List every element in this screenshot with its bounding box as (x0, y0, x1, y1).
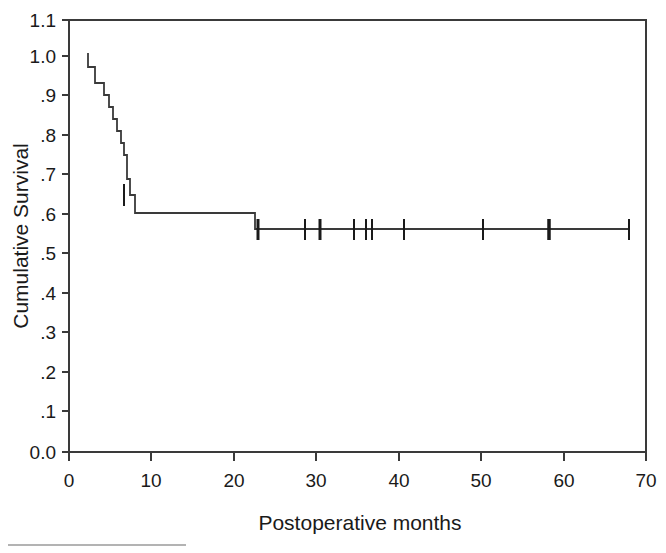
y-tick-label-0.2: .2 (40, 362, 56, 383)
y-tick-label-1.1: 1.1 (30, 10, 56, 31)
y-tick-label-0.5: .5 (40, 243, 56, 264)
plot-frame (69, 20, 646, 452)
y-tick-label-0.3: .3 (40, 322, 56, 343)
survival-chart-figure: 1.1 1.0 .9 .8 .7 .6 .5 .4 .3 .2 .1 0.0 0 (0, 0, 666, 553)
x-axis-ticks (69, 452, 646, 461)
x-tick-label-60: 60 (553, 470, 574, 491)
y-tick-label-0.8: .8 (40, 125, 56, 146)
x-tick-label-0: 0 (64, 470, 75, 491)
x-tick-label-20: 20 (223, 470, 244, 491)
x-axis-tick-labels: 0 10 20 30 40 50 60 70 (64, 470, 657, 491)
y-axis-ticks (62, 20, 69, 452)
scan-artifact-rule (8, 544, 186, 546)
x-tick-label-40: 40 (388, 470, 409, 491)
y-tick-label-0.0: 0.0 (30, 442, 56, 463)
x-tick-label-70: 70 (635, 470, 656, 491)
y-axis-tick-labels: 1.1 1.0 .9 .8 .7 .6 .5 .4 .3 .2 .1 0.0 (30, 10, 57, 463)
y-axis-title: Cumulative Survival (9, 143, 32, 329)
y-tick-label-1.0: 1.0 (30, 46, 56, 67)
y-tick-label-0.1: .1 (40, 401, 56, 422)
y-tick-label-0.7: .7 (40, 164, 56, 185)
x-tick-label-50: 50 (470, 470, 491, 491)
y-tick-label-0.4: .4 (40, 283, 56, 304)
x-axis-title: Postoperative months (258, 511, 461, 534)
axis-box (69, 20, 646, 452)
x-tick-label-10: 10 (140, 470, 161, 491)
kaplan-meier-survival-chart: 1.1 1.0 .9 .8 .7 .6 .5 .4 .3 .2 .1 0.0 0 (0, 0, 666, 553)
y-tick-label-0.9: .9 (40, 85, 56, 106)
x-tick-label-30: 30 (305, 470, 326, 491)
y-tick-label-0.6: .6 (40, 204, 56, 225)
